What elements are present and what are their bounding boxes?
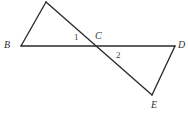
figure-lines [21,2,175,95]
point-label-d: D [178,40,185,50]
angle-label-2: 2 [116,51,121,60]
point-label-b: B [4,40,10,50]
segment-a-e [46,2,152,95]
geometry-figure: B C D E 1 2 [0,0,188,118]
point-label-c: C [95,31,102,41]
figure-canvas [0,0,188,118]
segment-d-e [152,46,175,95]
angle-label-1: 1 [74,33,79,42]
segment-b-a [21,2,46,46]
point-label-e: E [151,100,157,110]
